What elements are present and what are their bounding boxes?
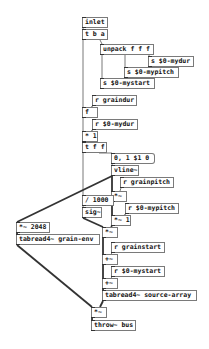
object-box-t-b-a[interactable]: t b a bbox=[82, 29, 108, 40]
object-label: s $0-mydur bbox=[151, 57, 190, 65]
object-label: *~ bbox=[114, 192, 122, 200]
object-box-r-graindur[interactable]: r graindur bbox=[92, 95, 137, 106]
object-label: r grainpitch bbox=[123, 178, 170, 186]
object-label: *~ bbox=[94, 308, 102, 316]
object-box-t-f-f[interactable]: t f f bbox=[82, 142, 107, 153]
object-label: r $0-mydur bbox=[95, 120, 134, 128]
object-box-sig[interactable]: sig~ bbox=[82, 207, 102, 218]
object-box-mul-2048[interactable]: *~ 2048 bbox=[16, 222, 50, 233]
object-box-throw[interactable]: throw~ bus bbox=[91, 320, 136, 331]
object-label: t b a bbox=[85, 30, 105, 38]
object-label: *~ 2048 bbox=[19, 223, 46, 231]
object-box-mul-sig-env[interactable]: *~ bbox=[102, 227, 118, 238]
object-label: tabread4~ source-array bbox=[105, 291, 191, 299]
object-box-div-1000[interactable]: / 1000 bbox=[82, 195, 114, 206]
object-label: r graindur bbox=[95, 96, 134, 104]
object-label: unpack f f f bbox=[103, 45, 150, 53]
message-flag-shape bbox=[152, 153, 155, 164]
object-box-add-1[interactable]: +~ bbox=[102, 254, 118, 265]
object-box-s-mystart[interactable]: s $0-mystart bbox=[100, 78, 155, 89]
object-box-tabread-src[interactable]: tabread4~ source-array bbox=[102, 290, 197, 301]
object-label: *~ bbox=[105, 228, 113, 236]
object-label: s $0-mypitch bbox=[127, 68, 174, 76]
message-box-msg-vline[interactable]: 0, 1 $1 0 bbox=[111, 153, 152, 164]
object-box-mul-sig-1[interactable]: *~ 1 bbox=[111, 215, 131, 226]
object-label: r $0-mystart bbox=[114, 267, 161, 275]
object-label: f bbox=[85, 108, 89, 116]
object-label: t f f bbox=[85, 143, 105, 151]
object-box-r-grainpitch[interactable]: r grainpitch bbox=[120, 177, 174, 188]
object-label: inlet bbox=[85, 18, 105, 26]
object-label: / 1000 bbox=[85, 196, 108, 204]
object-label: +~ bbox=[105, 255, 113, 263]
object-box-inlet[interactable]: inlet bbox=[82, 17, 108, 28]
object-box-r-grainstart[interactable]: r grainstart bbox=[111, 242, 165, 253]
object-label: * 1 bbox=[85, 132, 97, 140]
object-box-r-mystart[interactable]: r $0-mystart bbox=[111, 266, 165, 277]
object-box-mul-1[interactable]: * 1 bbox=[82, 131, 98, 142]
object-box-vline[interactable]: vline~ bbox=[111, 165, 139, 176]
object-box-s-mypitch[interactable]: s $0-mypitch bbox=[124, 67, 179, 78]
object-label: throw~ bus bbox=[94, 321, 133, 329]
pd-patch-canvas[interactable]: inlett b aunpack f f fs $0-mydurs $0-myp… bbox=[0, 0, 209, 349]
patch-cord[interactable] bbox=[83, 218, 103, 227]
object-label: 0, 1 $1 0 bbox=[114, 154, 149, 162]
object-label: vline~ bbox=[114, 166, 137, 174]
object-label: sig~ bbox=[85, 208, 101, 216]
object-label: r grainstart bbox=[114, 243, 161, 251]
object-label: s $0-mystart bbox=[103, 79, 150, 87]
object-box-unpack[interactable]: unpack f f f bbox=[100, 44, 154, 55]
object-label: *~ 1 bbox=[114, 216, 130, 224]
object-box-f[interactable]: f bbox=[82, 107, 98, 118]
object-box-tabread-env[interactable]: tabread4~ grain-env bbox=[16, 234, 100, 245]
object-label: tabread4~ grain-env bbox=[19, 235, 93, 243]
object-label: r $0-mypitch bbox=[128, 204, 175, 212]
object-box-r-mypitch[interactable]: r $0-mypitch bbox=[125, 203, 179, 214]
object-box-add-2[interactable]: +~ bbox=[102, 278, 118, 289]
object-box-s-mydur[interactable]: s $0-mydur bbox=[148, 56, 194, 67]
object-box-mul-out[interactable]: *~ bbox=[91, 307, 107, 318]
patch-cord[interactable] bbox=[17, 245, 92, 307]
object-box-r-mydur[interactable]: r $0-mydur bbox=[92, 119, 138, 130]
object-label: +~ bbox=[105, 279, 113, 287]
